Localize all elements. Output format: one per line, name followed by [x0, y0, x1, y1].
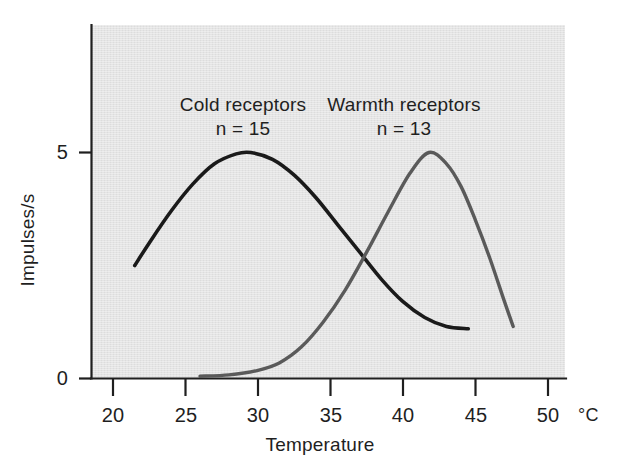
x-tick-label-30: 30 [247, 404, 270, 427]
chart-vector-layer [0, 0, 624, 469]
x-axis-title: Temperature [266, 434, 375, 456]
x-tick-label-35: 35 [320, 404, 343, 427]
warmth-receptors-curve [200, 152, 513, 376]
x-axis-unit-label: °C [578, 405, 599, 426]
y-tick-label-0: 0 [46, 367, 68, 390]
annotation-warmth-receptors-title: Warmth receptors [327, 94, 480, 115]
thermoreceptor-response-chart: 5 0 Impulses/s 20 25 30 35 40 45 50 °C T… [0, 0, 624, 469]
annotation-cold-receptors-n: n = 15 [180, 117, 306, 141]
x-tick-label-40: 40 [392, 404, 415, 427]
x-tick-label-50: 50 [537, 404, 560, 427]
x-tick-label-25: 25 [175, 404, 198, 427]
y-tick-label-5: 5 [46, 141, 68, 164]
annotation-cold-receptors-title: Cold receptors [180, 94, 306, 115]
cold-receptors-curve [135, 152, 469, 329]
x-tick-label-45: 45 [465, 404, 488, 427]
annotation-cold-receptors: Cold receptors n = 15 [180, 93, 306, 141]
y-axis-title: Impulses/s [17, 194, 39, 287]
annotation-warmth-receptors: Warmth receptors n = 13 [327, 93, 480, 141]
x-tick-label-20: 20 [102, 404, 125, 427]
annotation-warmth-receptors-n: n = 13 [327, 117, 480, 141]
